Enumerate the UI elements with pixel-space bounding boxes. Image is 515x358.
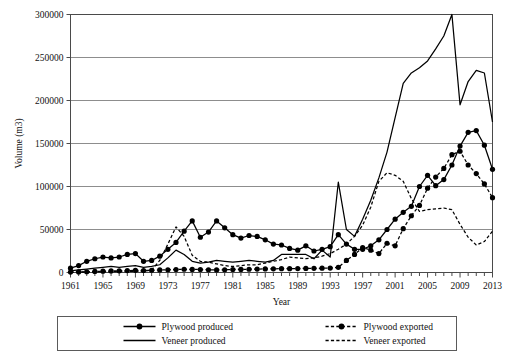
- legend-label: Plywood exported: [364, 322, 434, 332]
- data-point: [230, 267, 235, 272]
- data-point: [360, 245, 365, 250]
- y-tick-label: 300000: [35, 10, 64, 20]
- data-point: [173, 267, 178, 272]
- x-tick-label: 1965: [93, 281, 112, 291]
- series-plywood-exported: [68, 149, 495, 275]
- data-point: [206, 267, 211, 272]
- x-tick-label: 2005: [418, 281, 437, 291]
- data-point: [409, 204, 414, 209]
- data-point: [384, 227, 389, 232]
- data-point: [376, 237, 381, 242]
- data-point: [117, 254, 122, 259]
- data-point: [441, 177, 446, 182]
- data-point: [141, 268, 146, 273]
- data-point: [149, 258, 154, 263]
- x-tick-label: 1997: [353, 281, 372, 291]
- data-point: [287, 246, 292, 251]
- data-point: [352, 247, 357, 252]
- data-point: [76, 263, 81, 268]
- data-point: [401, 226, 406, 231]
- data-point: [433, 183, 438, 188]
- data-point: [376, 251, 381, 256]
- data-point: [125, 268, 130, 273]
- legend-marker: [339, 324, 345, 330]
- x-tick-label: 1981: [223, 281, 242, 291]
- data-point: [190, 218, 195, 223]
- data-point: [368, 248, 373, 253]
- data-point: [133, 251, 138, 256]
- y-tick-label: 250000: [35, 53, 64, 63]
- data-point: [206, 229, 211, 234]
- data-point: [173, 240, 178, 245]
- data-point: [279, 266, 284, 271]
- line-chart: 050000100000150000200000250000300000 196…: [0, 0, 515, 358]
- series-plywood-produced: [68, 128, 495, 271]
- legend-label: Plywood produced: [162, 322, 234, 332]
- chart-legend: Plywood producedVeneer producedPlywood e…: [58, 317, 457, 351]
- data-point: [246, 233, 251, 238]
- data-point: [311, 266, 316, 271]
- data-point: [117, 268, 122, 273]
- data-point: [238, 267, 243, 272]
- data-point: [214, 218, 219, 223]
- data-point: [198, 235, 203, 240]
- y-tick-label: 0: [59, 268, 64, 278]
- data-point: [141, 259, 146, 264]
- legend-label: Veneer exported: [364, 336, 426, 346]
- y-tick-label: 150000: [35, 139, 64, 149]
- data-point: [222, 267, 227, 272]
- data-point: [311, 248, 316, 253]
- x-axis-ticks: [71, 273, 493, 278]
- data-point: [263, 237, 268, 242]
- x-tick-label: 1969: [126, 281, 145, 291]
- x-tick-label: 1973: [158, 281, 177, 291]
- y-axis-tick-labels: 050000100000150000200000250000300000: [35, 10, 64, 278]
- data-point: [417, 203, 422, 208]
- data-point: [401, 210, 406, 215]
- data-point: [303, 243, 308, 248]
- data-point: [441, 166, 446, 171]
- series-veneer-produced: [71, 15, 493, 271]
- data-point: [384, 241, 389, 246]
- data-point: [190, 267, 195, 272]
- x-tick-label: 1961: [61, 281, 80, 291]
- data-point: [490, 167, 495, 172]
- data-point: [165, 267, 170, 272]
- y-tick-label: 50000: [40, 225, 64, 235]
- data-point: [482, 181, 487, 186]
- gridlines: [71, 15, 493, 230]
- data-point: [466, 162, 471, 167]
- data-point: [125, 252, 130, 257]
- data-point: [449, 162, 454, 167]
- data-point: [214, 267, 219, 272]
- data-point: [133, 268, 138, 273]
- data-point: [328, 265, 333, 270]
- data-point: [246, 267, 251, 272]
- series-line: [71, 15, 493, 271]
- data-point: [336, 265, 341, 270]
- data-point: [457, 149, 462, 154]
- legend-label: Veneer produced: [162, 336, 226, 346]
- data-point: [255, 234, 260, 239]
- data-point: [84, 259, 89, 264]
- x-tick-label: 2013: [483, 281, 502, 291]
- data-point: [449, 152, 454, 157]
- data-point: [287, 266, 292, 271]
- x-axis-tick-labels: 1961196519691973197719811985198919931997…: [61, 281, 502, 291]
- data-point: [255, 266, 260, 271]
- data-point: [433, 174, 438, 179]
- data-point: [271, 266, 276, 271]
- data-point: [238, 236, 243, 241]
- data-point: [271, 242, 276, 247]
- data-point: [482, 143, 487, 148]
- data-point: [295, 266, 300, 271]
- data-point: [108, 255, 113, 260]
- x-tick-label: 1985: [256, 281, 275, 291]
- data-point: [474, 128, 479, 133]
- x-axis-title: Year: [273, 297, 291, 307]
- data-point: [393, 243, 398, 248]
- data-point: [263, 266, 268, 271]
- data-point: [100, 254, 105, 259]
- data-point: [303, 266, 308, 271]
- y-tick-label: 100000: [35, 182, 64, 192]
